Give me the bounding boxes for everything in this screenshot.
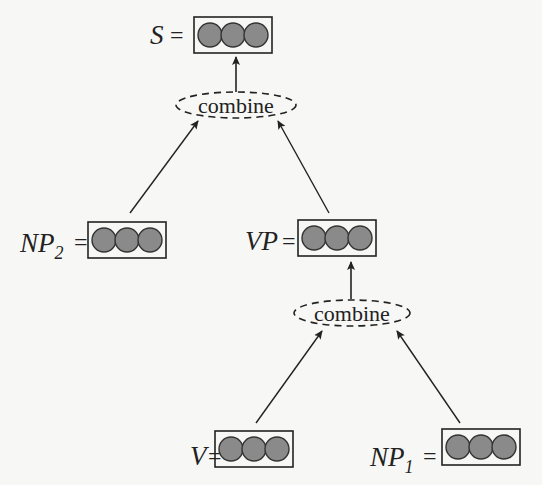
combine-bottom: combine	[294, 262, 410, 326]
vector-np1	[442, 429, 520, 465]
node-label-np2: NP2	[19, 228, 64, 263]
vector-np2	[88, 222, 166, 258]
node-vp: VP =	[245, 220, 376, 256]
composition-diagram: S = combine NP2 = VP = combine V = NP1	[0, 0, 542, 485]
equals-sign: =	[423, 443, 437, 469]
node-label-np1: NP1	[369, 442, 414, 477]
vector-vp	[298, 220, 376, 256]
vector-v	[215, 431, 293, 467]
node-s: S =	[150, 17, 272, 53]
node-label-v: V	[190, 441, 210, 471]
equals-sign: =	[170, 22, 184, 48]
node-label-s: S	[150, 20, 164, 50]
arrow-np1-to-combine	[397, 331, 460, 423]
vector-s	[194, 17, 272, 53]
equals-sign: =	[282, 228, 296, 254]
arrow-vp-to-combine	[278, 121, 329, 213]
node-label-vp: VP	[245, 226, 278, 256]
node-v: V =	[190, 431, 293, 471]
equals-sign: =	[74, 229, 88, 255]
combine-top: combine	[176, 57, 296, 118]
node-np1: NP1 =	[369, 429, 520, 477]
node-np2: NP2 =	[19, 222, 166, 263]
combine-label: combine	[314, 301, 390, 326]
combine-label: combine	[198, 93, 274, 118]
arrow-np2-to-combine	[130, 121, 198, 213]
arrow-v-to-combine	[256, 331, 322, 423]
